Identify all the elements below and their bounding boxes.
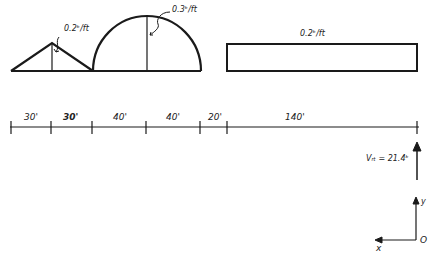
beam-load-diagram bbox=[0, 0, 430, 255]
dimension-label: 140' bbox=[285, 113, 305, 122]
semicircle-load-label: 0.3ᵏ/ft bbox=[172, 6, 197, 14]
dimension-label: 30' bbox=[63, 113, 78, 122]
coordinate-axes-icon bbox=[375, 197, 419, 243]
dimension-label: 40' bbox=[113, 113, 127, 122]
triangular-load bbox=[11, 37, 93, 71]
uniform-load-label: 0.2ᵏ/ft bbox=[300, 30, 325, 38]
reaction-arrow-icon bbox=[413, 142, 421, 180]
origin-label: O bbox=[420, 236, 427, 245]
x-axis-label: x bbox=[376, 244, 381, 253]
y-axis-label: y bbox=[421, 198, 426, 206]
dimension-label: 30' bbox=[24, 113, 38, 122]
dimension-label: 20' bbox=[208, 113, 222, 122]
triangle-load-label: 0.2ᵏ/ft bbox=[64, 25, 89, 33]
semicircular-load bbox=[93, 12, 201, 71]
dimension-line bbox=[10, 121, 419, 134]
uniform-load bbox=[227, 44, 417, 71]
reaction-label: Vᵣₜ = 21.4ᵏ bbox=[366, 155, 409, 163]
dimension-label: 40' bbox=[166, 113, 180, 122]
leader-arrow-icon bbox=[56, 37, 59, 52]
